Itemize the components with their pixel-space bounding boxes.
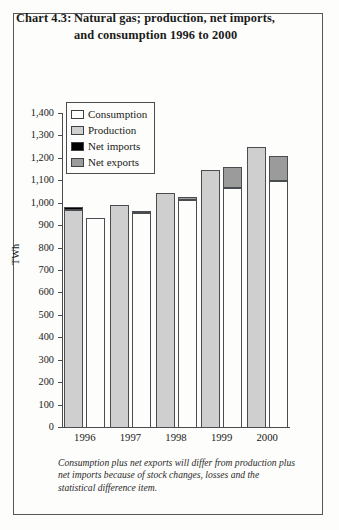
legend-swatch-production: [71, 126, 84, 135]
y-tick-label: 800: [39, 243, 54, 253]
y-tick-label: 1,400: [31, 108, 54, 118]
bar-consumption-2000: [269, 181, 288, 428]
page-title: Chart 4.3:Natural gas; production, net i…: [16, 10, 298, 44]
y-tick-label: 1,200: [31, 153, 54, 163]
chart-number: Chart 4.3:: [16, 10, 74, 27]
legend-label: Production: [88, 124, 136, 136]
bar-group-1998: [156, 113, 197, 428]
bar-production-1999: [201, 170, 220, 428]
y-tick-mark: [58, 113, 63, 114]
y-tick-label: 200: [39, 377, 54, 387]
legend-label: Consumption: [88, 108, 147, 120]
y-tick-mark: [58, 158, 63, 159]
y-tick-label: 1,100: [31, 175, 54, 185]
y-tick-label: 100: [39, 400, 54, 410]
bar-group-1999: [201, 113, 242, 428]
y-tick-label: 1,000: [31, 198, 54, 208]
y-tick-mark: [58, 360, 63, 361]
y-tick-mark: [58, 427, 63, 428]
y-tick-mark: [58, 382, 63, 383]
y-tick-label: 600: [39, 287, 54, 297]
legend-item-netimports: Net imports: [71, 138, 147, 154]
y-tick-mark: [58, 405, 63, 406]
x-tick-label-1999: 1999: [199, 431, 245, 443]
bar-net-exports-1997: [132, 211, 151, 213]
chart-title-text: Natural gas; production, net imports, an…: [74, 10, 279, 44]
y-tick-mark: [58, 270, 63, 271]
legend-label: Net imports: [88, 140, 140, 152]
y-tick-mark: [58, 225, 63, 226]
x-tick-label-1998: 1998: [153, 431, 199, 443]
chart-legend: ConsumptionProductionNet importsNet expo…: [66, 102, 155, 174]
bar-net-imports-1996: [64, 207, 83, 210]
y-axis-line: [62, 113, 63, 428]
legend-item-netexports: Net exports: [71, 154, 147, 170]
y-tick-label: 500: [39, 310, 54, 320]
y-tick-label: 0: [49, 422, 54, 432]
bar-consumption-1997: [132, 213, 151, 428]
bar-production-1998: [156, 193, 175, 429]
y-tick-label: 1,300: [31, 130, 54, 140]
chart-footnote: Consumption plus net exports will differ…: [58, 457, 296, 494]
bar-production-1996: [64, 210, 83, 428]
bar-consumption-1998: [178, 200, 197, 428]
legend-swatch-netexports: [71, 158, 84, 167]
x-tick-label-1996: 1996: [62, 431, 108, 443]
legend-swatch-consumption: [71, 110, 84, 119]
legend-label: Net exports: [88, 156, 139, 168]
y-tick-mark: [58, 180, 63, 181]
y-tick-label: 700: [39, 265, 54, 275]
y-tick-mark: [58, 135, 63, 136]
y-axis-title: TWh: [10, 244, 21, 265]
x-tick-label-1997: 1997: [108, 431, 154, 443]
legend-item-production: Production: [71, 122, 147, 138]
legend-item-consumption: Consumption: [71, 106, 147, 122]
bar-net-exports-1998: [178, 197, 197, 200]
bar-production-1997: [110, 205, 129, 428]
y-tick-mark: [58, 248, 63, 249]
legend-swatch-netimports: [71, 142, 84, 151]
y-tick-mark: [58, 292, 63, 293]
bar-consumption-1999: [223, 188, 242, 428]
x-tick-label-2000: 2000: [244, 431, 290, 443]
y-tick-label: 300: [39, 355, 54, 365]
y-tick-label: 400: [39, 332, 54, 342]
y-tick-mark: [58, 337, 63, 338]
bar-consumption-1996: [86, 218, 105, 428]
y-tick-mark: [58, 315, 63, 316]
bar-production-2000: [247, 147, 266, 428]
bar-group-2000: [247, 113, 288, 428]
bar-net-exports-1999: [223, 167, 242, 188]
y-tick-mark: [58, 203, 63, 204]
y-tick-label: 900: [39, 220, 54, 230]
bar-net-exports-2000: [269, 156, 288, 182]
